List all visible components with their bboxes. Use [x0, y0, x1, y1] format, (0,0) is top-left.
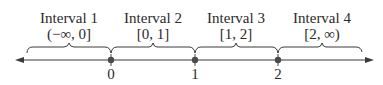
brace-interval-4 [278, 43, 362, 53]
interval-3-title: Interval 3 [207, 10, 265, 26]
left-arrow-icon [15, 57, 24, 63]
interval-2-notation: [0, 1] [137, 26, 170, 42]
brace-interval-2 [111, 43, 195, 53]
interval-2-title: Interval 2 [124, 10, 182, 26]
point-0-label: 0 [107, 66, 115, 82]
right-arrow-icon [365, 57, 374, 63]
point-1-label: 1 [191, 66, 199, 82]
interval-4-title: Interval 4 [293, 10, 351, 26]
brace-interval-3 [195, 43, 278, 53]
interval-1-title: Interval 1 [40, 10, 98, 26]
interval-1-notation: (−∞, 0] [47, 26, 91, 42]
brace-interval-1 [27, 43, 111, 53]
point-2-label: 2 [274, 66, 282, 82]
interval-4-notation: [2, ∞) [304, 26, 340, 42]
interval-3-notation: [1, 2] [220, 26, 253, 42]
